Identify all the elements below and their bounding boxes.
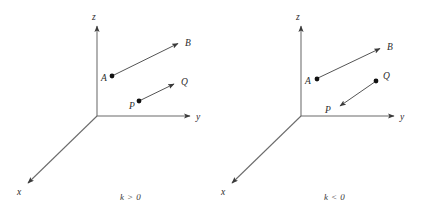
point-Q-label: Q [383, 71, 390, 81]
vector-PQ [140, 84, 174, 101]
x-axis [232, 116, 301, 183]
point-B-label: B [387, 42, 393, 52]
z-axis-label: z [295, 12, 300, 22]
point-P-label: P [324, 105, 331, 115]
right-panel-vectors [318, 49, 380, 107]
point-B-label: B [185, 38, 191, 48]
left-panel: z y x A B P Q k > 0 [16, 12, 201, 202]
point-A-dot [315, 77, 320, 82]
vector-AB [318, 49, 380, 79]
left-panel-points [110, 74, 142, 104]
z-axis-label: z [91, 12, 96, 22]
left-panel-vectors [113, 44, 178, 101]
point-Q-dot [374, 79, 379, 84]
left-panel-axis-labels: z y x [16, 12, 201, 197]
vector-QP [340, 83, 374, 107]
x-axis-label: x [220, 187, 226, 197]
right-panel-axes [232, 26, 394, 183]
right-panel: z y x A B P Q k < 0 [220, 12, 405, 202]
point-A-label: A [304, 76, 311, 86]
right-panel-points [315, 77, 379, 84]
point-P-label: P [128, 101, 135, 111]
point-Q-label: Q [181, 77, 188, 87]
vector-AB [113, 44, 178, 76]
point-A-dot [110, 74, 115, 79]
vector-scalar-multiple-figure: z y x A B P Q k > 0 [0, 0, 431, 219]
x-axis [28, 116, 97, 183]
right-panel-axis-labels: z y x [220, 12, 405, 197]
figure-canvas: z y x A B P Q k > 0 [0, 0, 431, 219]
y-axis-label: y [399, 112, 405, 122]
point-P-dot [137, 99, 142, 104]
y-axis-label: y [195, 112, 201, 122]
left-panel-caption: k > 0 [120, 192, 141, 202]
x-axis-label: x [16, 187, 22, 197]
point-A-label: A [100, 73, 107, 83]
right-panel-caption: k < 0 [324, 192, 345, 202]
